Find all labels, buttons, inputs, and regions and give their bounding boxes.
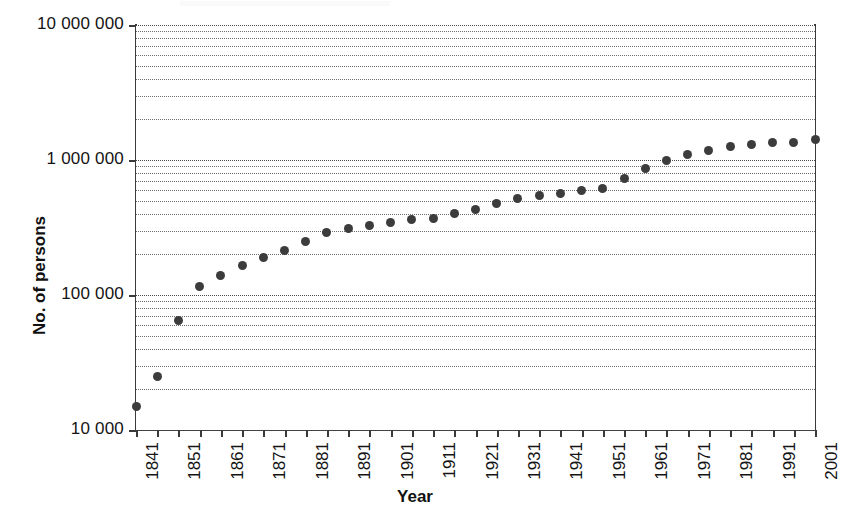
y-axis-tick-label: 1 000 000 [47,149,124,169]
x-axis-tick [221,430,223,437]
x-axis-tick-label: 1891 [355,442,375,480]
gridline-minor [136,254,815,255]
data-point [216,271,225,280]
x-axis-tick [285,430,287,437]
x-axis-tick [497,430,499,437]
data-point [662,156,671,165]
x-axis-tick [518,430,520,437]
x-axis-tick [157,430,159,437]
data-point [620,174,629,183]
data-point [238,261,247,270]
x-axis-tick-label: 1941 [567,442,587,480]
x-axis-tick-label: 1951 [610,442,630,480]
gridline-minor [136,325,815,326]
x-axis-tick-label: 1861 [228,442,248,480]
x-axis-tick [751,430,753,437]
x-axis-tick [263,430,265,437]
x-axis-tick-label: 1881 [313,442,333,480]
x-axis-tick [560,430,562,437]
gridline-major [136,160,815,161]
data-point [683,150,692,159]
gridline-minor [136,38,815,39]
data-point [322,228,331,237]
data-point [641,164,650,173]
x-axis-tick-label: 1981 [737,442,757,480]
gridline-minor [136,79,815,80]
x-axis-tick-label: 1971 [695,442,715,480]
x-axis-tick [306,430,308,437]
gridline-minor [136,166,815,167]
data-point [195,282,204,291]
x-axis-tick-label: 1851 [185,442,205,480]
y-axis-title: No. of persons [30,216,50,335]
data-point [726,142,735,151]
x-axis-tick [815,430,817,437]
x-axis-tick [603,430,605,437]
data-point [747,140,756,149]
data-point [344,224,353,233]
gridline-minor [136,349,815,350]
data-point [768,138,777,147]
gridline-minor [136,389,815,390]
x-axis-tick [136,430,138,437]
data-point [492,199,501,208]
x-axis-tick [539,430,541,437]
gridline-minor [136,31,815,32]
gridline-minor [136,119,815,120]
x-axis-tick [688,430,690,437]
x-axis-tick [624,430,626,437]
cropped-title-remnant [180,1,390,6]
x-axis-tick [242,430,244,437]
x-axis-tick [666,430,668,437]
plot-area [136,25,815,430]
gridline-minor [136,55,815,56]
data-point [450,209,459,218]
gridline-minor [136,46,815,47]
x-axis-tick-label: 1911 [440,442,460,479]
x-axis-tick-label: 1901 [398,442,418,480]
y-axis-tick [129,430,136,432]
x-axis-tick [773,430,775,437]
x-axis-tick [369,430,371,437]
gridline-minor [136,201,815,202]
x-axis-tick-label: 2001 [822,442,842,480]
y-axis-tick-label: 10 000 [71,419,124,439]
x-axis-tick [327,430,329,437]
data-point [429,214,438,223]
data-point [577,186,586,195]
data-point [365,221,374,230]
x-axis-tick [412,430,414,437]
gridline-minor [136,366,815,367]
data-point [598,184,607,193]
x-axis-tick [794,430,796,437]
data-point [811,135,820,144]
x-axis-tick-label: 1961 [652,442,672,480]
data-point [535,191,544,200]
x-axis-tick [476,430,478,437]
data-point [556,189,565,198]
x-axis-tick [178,430,180,437]
x-axis-tick [645,430,647,437]
data-point [280,246,289,255]
x-axis-tick [200,430,202,437]
y-axis-tick [129,295,136,297]
gridline-minor [136,66,815,67]
y-axis-tick-label: 100 000 [61,284,124,304]
x-axis-tick-label: 1841 [143,442,163,480]
x-axis-tick [582,430,584,437]
x-axis-tick [391,430,393,437]
data-point [301,237,310,246]
gridline-minor [136,231,815,232]
gridline-minor [136,181,815,182]
gridline-minor [136,190,815,191]
x-axis-tick [730,430,732,437]
x-axis-tick [348,430,350,437]
x-axis-tick-label: 1921 [483,442,503,480]
x-axis-tick [454,430,456,437]
gridline-minor [136,173,815,174]
gridline-minor [136,316,815,317]
gridline-minor [136,301,815,302]
data-point [259,253,268,262]
data-point [174,316,183,325]
